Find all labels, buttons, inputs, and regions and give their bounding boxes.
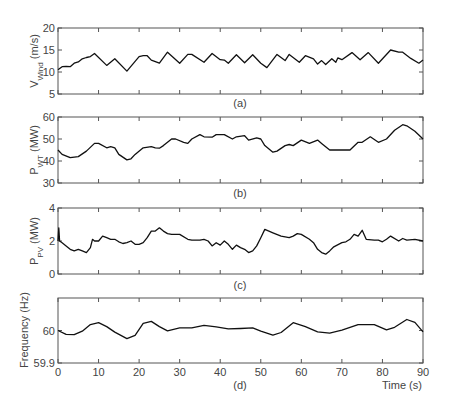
y-tick-label: 40 bbox=[43, 155, 55, 167]
x-tick-label: 40 bbox=[214, 366, 226, 378]
plot-frame-c bbox=[58, 208, 423, 274]
figure-canvas: 5101520 VWind (m/s) (a) 30405060 PWT (MW… bbox=[0, 0, 449, 407]
y-tick-label: 30 bbox=[43, 177, 55, 189]
frequency-curve bbox=[58, 320, 423, 339]
caption-b: (b) bbox=[233, 187, 246, 199]
y-tick-label: 0 bbox=[49, 268, 55, 280]
plot-frame-b bbox=[58, 117, 423, 183]
panel-c: 024 PPV (MW) (c) bbox=[28, 202, 423, 291]
caption-a: (a) bbox=[233, 97, 246, 109]
y-tick-label: 2 bbox=[49, 235, 55, 247]
caption-c: (c) bbox=[234, 279, 247, 291]
y-tick-label: 10 bbox=[43, 66, 55, 78]
x-tick-label: 0 bbox=[55, 366, 61, 378]
pv-power-curve bbox=[58, 228, 423, 254]
y-tick-label: 59.9 bbox=[34, 357, 55, 369]
y-tick-label: 50 bbox=[43, 133, 55, 145]
xticks-c bbox=[58, 208, 423, 274]
panel-d: 59.960 Frequency (Hz) 010203040506070809… bbox=[18, 292, 429, 391]
wind-turbine-power-curve bbox=[58, 125, 423, 160]
x-axis-title: Time (s) bbox=[382, 379, 422, 391]
y-tick-label: 5 bbox=[49, 88, 55, 100]
y-tick-label: 15 bbox=[43, 44, 55, 56]
ylabel-d: Frequency (Hz) bbox=[18, 292, 30, 368]
yticks-c: 024 bbox=[49, 202, 423, 280]
y-tick-label: 20 bbox=[43, 22, 55, 34]
x-tick-label: 20 bbox=[133, 366, 145, 378]
yticks-d: 59.960 bbox=[34, 325, 423, 370]
y-tick-label: 60 bbox=[43, 111, 55, 123]
y-tick-label: 60 bbox=[43, 325, 55, 337]
x-tick-label: 10 bbox=[92, 366, 104, 378]
wind-speed-curve bbox=[58, 50, 423, 71]
yticks-a: 5101520 bbox=[43, 22, 423, 100]
ylabel-c: PPV (MW) bbox=[28, 217, 45, 265]
panel-a: 5101520 VWind (m/s) (a) bbox=[28, 22, 423, 109]
y-tick-label: 4 bbox=[49, 202, 55, 214]
caption-d: (d) bbox=[233, 379, 246, 391]
yticks-b: 30405060 bbox=[43, 111, 423, 189]
x-tick-label: 80 bbox=[376, 366, 388, 378]
x-tick-label: 90 bbox=[417, 366, 429, 378]
x-tick-label: 30 bbox=[174, 366, 186, 378]
x-tick-label: 70 bbox=[336, 366, 348, 378]
x-tick-label: 50 bbox=[255, 366, 267, 378]
xticks-b bbox=[58, 117, 423, 183]
time-axis-labels: 0102030405060708090 bbox=[55, 366, 429, 378]
x-tick-label: 60 bbox=[295, 366, 307, 378]
ylabel-a: VWind (m/s) bbox=[28, 34, 45, 88]
panel-b: 30405060 PWT (MW) (b) bbox=[28, 111, 423, 199]
